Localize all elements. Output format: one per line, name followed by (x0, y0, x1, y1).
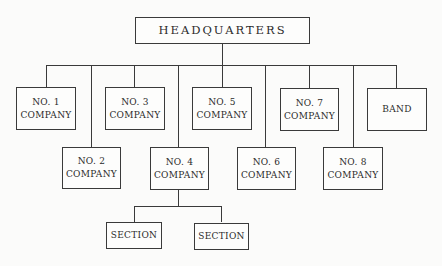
company-number: NO. 1 (32, 96, 60, 109)
connector-no8 (353, 65, 354, 147)
company-number: NO. 4 (166, 156, 194, 169)
connector-no4-down (178, 190, 179, 206)
connector-no2 (91, 65, 92, 147)
company-number: NO. 7 (296, 97, 324, 110)
connector-no6 (265, 65, 266, 147)
connector-no4 (178, 65, 179, 147)
connector-no5 (222, 65, 223, 87)
company-node-2: NO. 2 COMPANY (62, 147, 121, 189)
company-number: NO. 5 (208, 96, 236, 109)
connector-section-bus (134, 206, 222, 207)
company-node-4: NO. 4 COMPANY (150, 147, 209, 190)
section-label: SECTION (198, 230, 245, 243)
section-node-2: SECTION (194, 223, 249, 250)
band-node: BAND (367, 88, 427, 131)
headquarters-label: HEADQUARTERS (158, 24, 286, 37)
company-node-7: NO. 7 COMPANY (280, 88, 339, 131)
connector-section-1 (134, 206, 135, 222)
connector-no1 (46, 65, 47, 87)
company-label: COMPANY (66, 168, 117, 181)
headquarters-node: HEADQUARTERS (135, 17, 310, 44)
company-label: COMPANY (20, 109, 71, 122)
company-node-8: NO. 8 COMPANY (323, 147, 383, 190)
connector-section-2 (221, 206, 222, 222)
company-node-3: NO. 3 COMPANY (105, 87, 165, 130)
company-number: NO. 3 (121, 96, 149, 109)
company-label: COMPANY (327, 169, 378, 182)
connector-no3 (134, 65, 135, 87)
company-label: COMPANY (284, 110, 335, 123)
company-number: NO. 8 (339, 156, 367, 169)
band-label: BAND (382, 103, 411, 116)
section-label: SECTION (111, 229, 158, 242)
company-label: COMPANY (241, 169, 292, 182)
company-label: COMPANY (154, 169, 205, 182)
company-number: NO. 6 (253, 156, 281, 169)
company-node-6: NO. 6 COMPANY (237, 147, 296, 190)
company-node-1: NO. 1 COMPANY (16, 87, 76, 130)
connector-band (396, 65, 397, 88)
company-node-5: NO. 5 COMPANY (192, 87, 252, 130)
connector-hq-down (222, 43, 223, 66)
company-label: COMPANY (109, 109, 160, 122)
connector-no7 (309, 65, 310, 88)
company-label: COMPANY (196, 109, 247, 122)
company-number: NO. 2 (78, 155, 106, 168)
section-node-1: SECTION (106, 222, 162, 249)
